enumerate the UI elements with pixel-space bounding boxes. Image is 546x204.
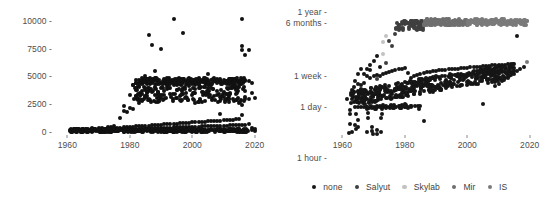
data-point <box>223 129 227 133</box>
data-point <box>511 62 515 66</box>
data-point <box>224 92 228 96</box>
data-point <box>496 79 500 83</box>
panel-right: 1 year -6 months -1 week -1 day -1 hour … <box>273 0 546 170</box>
data-point <box>418 83 422 87</box>
data-point <box>396 25 400 29</box>
data-point <box>203 99 207 103</box>
data-point <box>434 74 438 78</box>
data-point <box>378 65 382 69</box>
data-point <box>162 130 166 134</box>
data-point <box>356 96 360 100</box>
left-x-axis-labels: 1960198020002020 <box>0 140 273 154</box>
data-point <box>167 86 171 90</box>
data-point <box>211 87 215 91</box>
data-point <box>493 21 497 25</box>
y-tick-label: 7500 - <box>27 44 52 54</box>
data-point <box>237 117 241 121</box>
x-tick-label: 1960 <box>58 140 77 150</box>
data-point <box>207 81 211 85</box>
y-tick-label: 2500 - <box>27 99 52 109</box>
data-point <box>485 78 489 82</box>
data-point <box>152 99 156 103</box>
data-point <box>239 98 243 102</box>
data-point <box>492 77 496 81</box>
data-point <box>175 88 179 92</box>
data-point <box>401 95 405 99</box>
data-point <box>206 72 210 76</box>
data-point <box>128 93 132 97</box>
data-point <box>460 83 464 87</box>
data-point <box>498 21 502 25</box>
data-point <box>391 105 395 109</box>
data-point <box>96 129 100 133</box>
data-point <box>355 100 359 104</box>
y-tick-label: 10000 - <box>22 16 52 26</box>
data-point <box>143 94 147 98</box>
data-point <box>459 19 463 23</box>
data-point <box>393 32 397 36</box>
legend-swatch-skylab <box>402 185 407 190</box>
data-point <box>131 83 135 87</box>
data-point <box>500 79 504 83</box>
data-point <box>240 17 244 21</box>
data-point <box>483 74 487 78</box>
data-point <box>235 80 239 84</box>
data-point <box>166 80 170 84</box>
data-point <box>456 72 460 76</box>
data-point <box>122 104 126 108</box>
x-tick-mark <box>529 135 530 138</box>
data-point <box>227 77 231 81</box>
y-tick-label: 1 week - <box>294 71 327 81</box>
data-point <box>125 110 129 114</box>
data-point <box>453 18 457 22</box>
x-tick-label: 1980 <box>120 140 139 150</box>
data-point <box>234 128 238 132</box>
data-point <box>210 96 214 100</box>
data-point <box>240 113 244 117</box>
data-point <box>446 84 450 88</box>
data-point <box>381 40 385 44</box>
data-point <box>198 97 202 101</box>
data-point <box>363 94 367 98</box>
data-point <box>154 76 158 80</box>
data-point <box>384 61 388 65</box>
data-point <box>439 22 443 26</box>
data-point <box>439 88 443 92</box>
x-tick-mark <box>404 135 405 138</box>
data-point <box>191 97 195 101</box>
data-point <box>370 129 374 133</box>
legend-swatch-is <box>488 185 493 190</box>
right-y-axis-labels: 1 year -6 months -1 week -1 day -1 hour … <box>273 12 327 136</box>
data-point <box>171 99 175 103</box>
data-point <box>247 97 251 101</box>
data-point <box>197 86 201 90</box>
data-point <box>159 47 163 51</box>
data-point <box>181 128 185 132</box>
data-point <box>504 71 508 75</box>
data-point <box>473 21 477 25</box>
data-point <box>386 90 390 94</box>
data-point <box>515 34 519 38</box>
data-point <box>406 71 410 75</box>
left-y-axis-labels: 0 -2500 -5000 -7500 -10000 - <box>0 12 52 136</box>
data-point <box>176 129 180 133</box>
data-point <box>242 85 246 89</box>
data-point <box>140 130 144 134</box>
data-point <box>227 100 231 104</box>
data-point <box>417 79 421 83</box>
data-point <box>231 97 235 101</box>
data-point <box>404 20 408 24</box>
data-point <box>483 22 487 26</box>
data-point <box>146 98 150 102</box>
data-point <box>370 125 374 129</box>
data-point <box>354 127 358 131</box>
data-point <box>449 22 453 26</box>
data-point <box>348 112 352 116</box>
right-plot-area <box>333 12 536 136</box>
data-point <box>202 80 206 84</box>
data-point <box>171 92 175 96</box>
data-point <box>150 43 154 47</box>
data-point <box>456 23 460 27</box>
data-point <box>359 67 363 71</box>
data-point <box>379 130 383 134</box>
